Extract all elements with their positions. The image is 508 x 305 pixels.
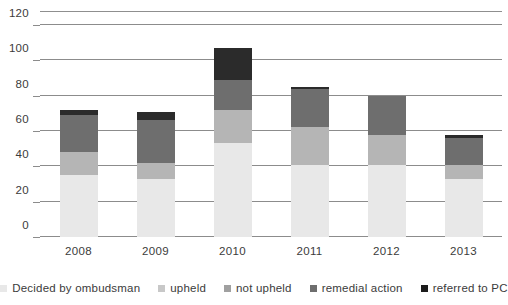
y-axis-label-80: 80 xyxy=(16,78,29,90)
bar-segment[interactable] xyxy=(214,110,252,144)
bar-group-2012[interactable]: 2012 xyxy=(368,96,406,237)
stacked-bar-chart: 020406080100120 200820092010201120122013… xyxy=(0,0,508,305)
bar-segment[interactable] xyxy=(214,143,252,237)
bar-segment[interactable] xyxy=(137,163,175,179)
x-axis-label-2009: 2009 xyxy=(137,245,175,257)
bar-segment[interactable] xyxy=(137,112,175,121)
legend-label: not upheld xyxy=(236,282,292,294)
bar-segment[interactable] xyxy=(137,120,175,162)
bar-segment[interactable] xyxy=(60,175,98,237)
legend-item-2[interactable]: not upheld xyxy=(224,282,292,294)
bar-segment[interactable] xyxy=(291,89,329,128)
legend-swatch-icon xyxy=(310,285,317,292)
legend-item-1[interactable]: upheld xyxy=(158,282,206,294)
chart-top-border xyxy=(40,11,502,12)
bar-segment[interactable] xyxy=(445,165,483,179)
legend-label: upheld xyxy=(170,282,206,294)
legend-item-0[interactable]: Decided by ombudsman xyxy=(0,282,140,294)
bar-segment[interactable] xyxy=(445,138,483,165)
legend-item-3[interactable]: remedial action xyxy=(310,282,403,294)
bar-segment[interactable] xyxy=(368,165,406,237)
y-tick-100 xyxy=(33,60,40,61)
bar-segment[interactable] xyxy=(368,135,406,165)
bar-segment[interactable] xyxy=(60,152,98,175)
legend-label: remedial action xyxy=(322,282,403,294)
bar-group-2011[interactable]: 2011 xyxy=(291,87,329,237)
y-axis-label-100: 100 xyxy=(9,42,29,54)
x-axis-label-2010: 2010 xyxy=(214,245,252,257)
bar-group-2008[interactable]: 2008 xyxy=(60,110,98,237)
bar-segment[interactable] xyxy=(291,127,329,164)
y-tick-20 xyxy=(33,202,40,203)
bar-segment[interactable] xyxy=(137,179,175,237)
x-axis-label-2013: 2013 xyxy=(445,245,483,257)
legend-swatch-icon xyxy=(421,285,428,292)
bar-group-2010[interactable]: 2010 xyxy=(214,48,252,237)
bar-group-2009[interactable]: 2009 xyxy=(137,112,175,237)
legend-swatch-icon xyxy=(224,285,231,292)
bar-group-2013[interactable]: 2013 xyxy=(445,135,483,237)
legend-label: referred to PC xyxy=(433,282,508,294)
bar-series-container: 200820092010201120122013 xyxy=(40,25,502,237)
legend-item-4[interactable]: referred to PC xyxy=(421,282,508,294)
y-axis-label-20: 20 xyxy=(16,184,29,196)
y-axis-label-60: 60 xyxy=(16,113,29,125)
bar-segment[interactable] xyxy=(214,48,252,80)
legend-swatch-icon xyxy=(0,285,7,292)
bar-segment[interactable] xyxy=(368,96,406,135)
y-axis-label-40: 40 xyxy=(16,148,29,160)
bar-segment[interactable] xyxy=(60,115,98,152)
bar-segment[interactable] xyxy=(445,179,483,237)
plot-area: 020406080100120 200820092010201120122013 xyxy=(40,25,502,237)
x-axis-label-2011: 2011 xyxy=(291,245,329,257)
y-axis-label-120: 120 xyxy=(9,7,29,19)
y-axis-label-0: 0 xyxy=(22,219,29,231)
bar-segment[interactable] xyxy=(291,165,329,237)
y-tick-80 xyxy=(33,96,40,97)
y-tick-0 xyxy=(33,237,40,238)
chart-legend: Decided by ombudsmanupheldnot upheldreme… xyxy=(0,282,508,294)
x-axis-label-2008: 2008 xyxy=(60,245,98,257)
x-axis-label-2012: 2012 xyxy=(368,245,406,257)
legend-swatch-icon xyxy=(158,285,165,292)
y-tick-40 xyxy=(33,166,40,167)
bar-segment[interactable] xyxy=(214,80,252,110)
y-tick-60 xyxy=(33,131,40,132)
y-tick-120 xyxy=(33,25,40,26)
legend-label: Decided by ombudsman xyxy=(12,282,140,294)
